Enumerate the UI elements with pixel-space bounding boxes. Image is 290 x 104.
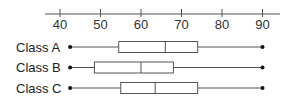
max-point xyxy=(261,66,265,70)
box-row-class-a: Class A xyxy=(16,40,265,55)
box-plot-chart: 405060708090 Class AClass BClass C xyxy=(0,0,290,104)
iqr-box xyxy=(119,42,198,53)
box-plot-rows: Class AClass BClass C xyxy=(16,40,265,96)
category-label: Class C xyxy=(16,81,62,96)
tick-label: 60 xyxy=(134,17,148,32)
iqr-box xyxy=(94,62,173,73)
x-axis-top: 405060708090 xyxy=(45,9,280,32)
tick-label: 80 xyxy=(215,17,229,32)
box-row-class-b: Class B xyxy=(16,60,265,75)
iqr-box xyxy=(121,83,198,94)
tick-label: 40 xyxy=(53,17,67,32)
tick-label: 90 xyxy=(255,17,269,32)
tick-label: 50 xyxy=(93,17,107,32)
min-point xyxy=(68,66,72,70)
min-point xyxy=(68,86,72,90)
box-row-class-c: Class C xyxy=(16,81,265,96)
max-point xyxy=(261,45,265,49)
min-point xyxy=(68,45,72,49)
category-label: Class A xyxy=(16,40,60,55)
max-point xyxy=(261,86,265,90)
tick-label: 70 xyxy=(174,17,188,32)
category-label: Class B xyxy=(16,60,61,75)
